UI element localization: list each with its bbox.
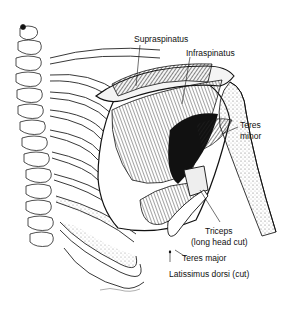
anatomy-illustration: Supraspinatus Infraspinatus Teres minor … [0,0,290,315]
humerus [219,82,276,236]
label-teres-minor-line1: Teres [240,120,261,130]
shoulder-drawing [0,0,290,315]
label-latissimus-dorsi: Latissimus dorsi (cut) [169,269,249,279]
label-teres-major: Teres major [182,253,226,263]
label-teres-minor-line2: minor [240,131,261,141]
label-triceps-line2: (long head cut) [191,237,248,247]
label-infraspinatus: Infraspinatus [186,48,235,58]
label-triceps-line1: Triceps [205,226,233,236]
spine [16,25,53,247]
label-supraspinatus: Supraspinatus [134,34,188,44]
